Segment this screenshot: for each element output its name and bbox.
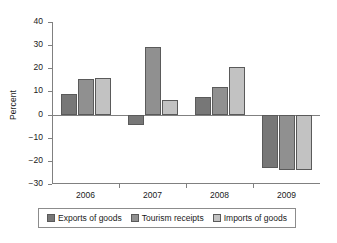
x-tick-label: 2009 bbox=[253, 190, 320, 200]
x-tick-label: 2007 bbox=[119, 190, 186, 200]
bar bbox=[279, 115, 295, 171]
bar bbox=[61, 94, 77, 115]
legend-entry-exports[interactable]: Exports of goods bbox=[47, 213, 122, 223]
bar bbox=[162, 100, 178, 115]
bar bbox=[229, 67, 245, 115]
x-tick bbox=[119, 184, 120, 188]
y-axis-title: Percent bbox=[6, 70, 20, 140]
chart-legend: Exports of goods Tourism receipts Import… bbox=[38, 208, 296, 228]
y-tick-label: 0 bbox=[17, 109, 43, 119]
bar bbox=[95, 78, 111, 115]
bar bbox=[212, 87, 228, 114]
bar-group-2009: 2009 bbox=[253, 22, 320, 184]
bar-chart-figure: Percent 403020100−10−20−30 2006200720082… bbox=[0, 0, 337, 243]
y-tick-label: −20 bbox=[17, 155, 43, 165]
legend-swatch-icon-exports bbox=[47, 214, 55, 222]
bar bbox=[262, 115, 278, 169]
x-tick-label: 2008 bbox=[186, 190, 253, 200]
legend-label-tourism: Tourism receipts bbox=[142, 213, 204, 223]
bar bbox=[78, 79, 94, 115]
legend-entry-tourism[interactable]: Tourism receipts bbox=[131, 213, 204, 223]
y-tick-label: 10 bbox=[17, 85, 43, 95]
plot-area: 403020100−10−20−30 2006200720082009 bbox=[52, 22, 320, 184]
y-tick-label: −30 bbox=[17, 178, 43, 188]
bar-group-2008: 2008 bbox=[186, 22, 253, 184]
x-tick bbox=[253, 184, 254, 188]
x-tick bbox=[186, 184, 187, 188]
y-tick-label: −10 bbox=[17, 132, 43, 142]
y-tick-label: 30 bbox=[17, 39, 43, 49]
bar-group-2007: 2007 bbox=[119, 22, 186, 184]
y-tick-label: 40 bbox=[17, 16, 43, 26]
bar bbox=[128, 115, 144, 125]
y-tick-label: 20 bbox=[17, 62, 43, 72]
bar bbox=[195, 97, 211, 115]
bar-group-2006: 2006 bbox=[52, 22, 119, 184]
bar bbox=[145, 47, 161, 114]
legend-swatch-icon-imports bbox=[213, 214, 221, 222]
y-tick: −30 bbox=[48, 184, 52, 185]
legend-label-exports: Exports of goods bbox=[58, 213, 122, 223]
x-tick-label: 2006 bbox=[52, 190, 119, 200]
legend-entry-imports[interactable]: Imports of goods bbox=[213, 213, 287, 223]
legend-label-imports: Imports of goods bbox=[224, 213, 287, 223]
legend-swatch-icon-tourism bbox=[131, 214, 139, 222]
bar bbox=[296, 115, 312, 171]
